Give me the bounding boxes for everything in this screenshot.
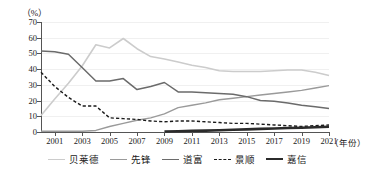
y-tick-label: 10: [0, 111, 41, 121]
x-tick-label: 2009: [156, 136, 173, 146]
legend-label: 道富: [183, 152, 203, 166]
legend-swatch-icon: [266, 158, 283, 160]
legend-label: 先锋: [131, 152, 151, 166]
legend-label: 嘉信: [287, 152, 307, 166]
x-tick-label: 2017: [266, 136, 283, 146]
legend-item[interactable]: 先锋: [110, 152, 151, 166]
y-tick-label: 60: [0, 33, 41, 43]
x-tick-label: 2019: [293, 136, 310, 146]
series-line-0: [41, 39, 329, 116]
x-tick-label: 2007: [129, 136, 146, 146]
legend-item[interactable]: 嘉信: [266, 152, 307, 166]
legend-item[interactable]: 道富: [162, 152, 203, 166]
y-tick-label: 30: [0, 80, 41, 90]
x-tick-label: 2015: [238, 136, 255, 146]
y-tick-label: 50: [0, 48, 41, 58]
series-plot: [41, 22, 329, 132]
y-tick-label: 70: [0, 17, 41, 27]
legend-item[interactable]: 贝莱德: [48, 152, 99, 166]
y-tick-label: 0: [0, 127, 41, 137]
x-axis-title: （年份）: [330, 136, 365, 148]
y-tick-label: 40: [0, 64, 41, 74]
x-tick-label: 2011: [184, 136, 201, 146]
legend-item[interactable]: 景顺: [214, 152, 255, 166]
legend-swatch-icon: [48, 159, 65, 160]
chart-legend: 贝莱德先锋道富景顺嘉信: [0, 152, 355, 166]
series-line-3: [41, 72, 329, 126]
y-tick-label: 20: [0, 96, 41, 106]
legend-label: 景顺: [235, 152, 255, 166]
x-tick-label: 2005: [101, 136, 118, 146]
legend-swatch-icon: [162, 159, 179, 160]
series-line-4: [164, 127, 329, 132]
x-tick-label: 2001: [46, 136, 63, 146]
x-tick-label: 2003: [74, 136, 91, 146]
legend-swatch-icon: [110, 159, 127, 160]
x-tick-label: 2013: [211, 136, 228, 146]
series-line-2: [41, 51, 329, 108]
legend-swatch-icon: [214, 159, 231, 160]
legend-label: 贝莱德: [69, 152, 99, 166]
